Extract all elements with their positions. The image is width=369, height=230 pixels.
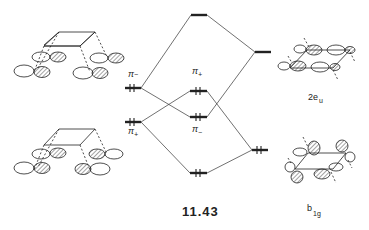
label-b1g: b1g <box>307 203 321 213</box>
b1g-orbital-drawing <box>285 137 355 183</box>
mo-diagram <box>0 0 369 230</box>
label-left-pi-plus: π+ <box>128 126 138 136</box>
energy-levels <box>125 15 271 173</box>
label-2eu: 2eu <box>308 92 323 102</box>
2eu-orbital-drawing <box>278 38 355 80</box>
label-sub: u <box>319 97 323 104</box>
label-main: b <box>307 203 312 213</box>
label-sub: + <box>134 131 138 138</box>
label-sub: − <box>198 129 202 136</box>
label-sub: − <box>134 71 138 78</box>
label-left-pi-minus: π− <box>128 69 138 79</box>
label-main: 2e <box>308 92 318 102</box>
label-sub: + <box>198 71 202 78</box>
label-center-pi-minus: π− <box>192 124 202 134</box>
pi-minus-fragment-drawing <box>14 32 124 79</box>
figure-label: 11.43 <box>182 204 219 219</box>
correlation-lines <box>141 15 255 173</box>
label-sub: 1g <box>313 210 321 217</box>
pi-plus-fragment-drawing <box>14 129 123 175</box>
label-center-pi-plus: π+ <box>192 66 202 76</box>
